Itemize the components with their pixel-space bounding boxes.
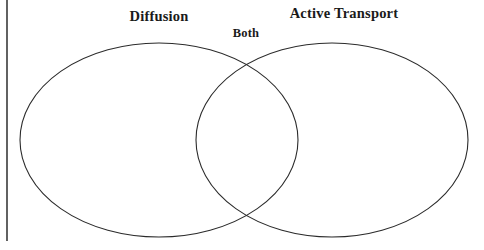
right-set-label: Active Transport [258, 6, 430, 21]
venn-diagram: Diffusion Active Transport Both [0, 0, 484, 250]
intersection-label: Both [196, 27, 296, 40]
